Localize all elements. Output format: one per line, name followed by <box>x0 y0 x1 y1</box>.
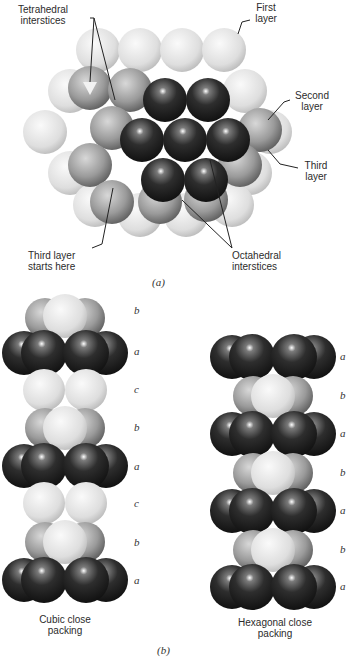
cubic-layer-label: a <box>134 574 140 586</box>
title-cubic-close-packing: Cubic close packing <box>20 614 110 636</box>
layer-stacks <box>0 0 351 660</box>
cubic-layer-label: b <box>134 421 140 433</box>
caption-b: (b) <box>157 644 170 656</box>
hexagonal-layer-label: b <box>340 389 346 401</box>
hexagonal-layer-label: a <box>340 427 346 439</box>
hexagonal-layer-label: a <box>340 350 346 362</box>
hexagonal-stack <box>210 334 336 610</box>
cubic-layer-label: a <box>134 345 140 357</box>
cubic-layer-label: b <box>134 536 140 548</box>
cubic-layer-label: a <box>134 460 140 472</box>
cubic-layer-label: b <box>134 304 140 316</box>
cubic-layer-label: c <box>134 383 139 395</box>
hexagonal-layer-label: a <box>340 580 346 592</box>
hexagonal-layer-label: b <box>340 543 346 555</box>
cubic-stack <box>2 294 128 603</box>
cubic-layer-label: c <box>134 497 139 509</box>
title-hexagonal-close-packing: Hexagonal close packing <box>225 617 325 639</box>
hexagonal-layer-label: a <box>340 504 346 516</box>
hexagonal-layer-label: b <box>340 466 346 478</box>
